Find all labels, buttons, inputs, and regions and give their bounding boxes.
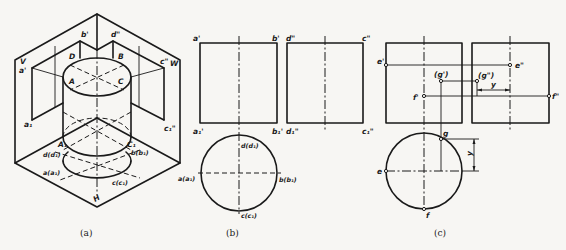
h-diagonal — [60, 150, 140, 180]
label-a-a1: a(a₁) — [43, 169, 60, 176]
label-plane-w: W — [170, 59, 179, 68]
point-f-double-prime — [547, 94, 550, 97]
label-y-top: y — [465, 150, 474, 156]
v-box-bottom — [32, 103, 63, 120]
label-A: A — [68, 77, 75, 86]
label-c1-double-prime: c₁" — [164, 124, 176, 133]
point-g-prime — [439, 79, 442, 82]
label-C1: C₁ — [127, 140, 136, 149]
label-e: e — [377, 167, 382, 176]
label-g: g — [443, 129, 449, 138]
arrowhead — [477, 89, 482, 92]
label-d1-double-prime: d₁" — [286, 127, 299, 136]
label-a-prime: a' — [193, 34, 200, 43]
arrowhead — [505, 89, 510, 92]
point-e-double-prime — [508, 63, 511, 66]
panel-c-point-location: e' e" (g') (g") f' f" y g e f y (c) — [377, 36, 559, 238]
label-a1-prime: a₁' — [193, 127, 204, 136]
point-e-prime — [384, 63, 387, 66]
point-e — [384, 169, 387, 172]
label-a-a1: a(a₁) — [178, 175, 195, 182]
projector-line — [131, 68, 164, 77]
label-c-double-prime: c" — [160, 57, 168, 66]
label-D: D — [69, 52, 75, 61]
arrowhead — [473, 139, 476, 144]
label-c-c1: c(c₁) — [112, 179, 128, 186]
caption-c: (c) — [434, 228, 446, 238]
w-box-bottom — [131, 103, 164, 120]
label-c1-double-prime: c₁" — [362, 127, 374, 136]
figure-canvas: V a' b' d" c" W D B A C a₁ c₁" A₁ C₁ d(d… — [0, 0, 566, 250]
label-f-prime: f' — [413, 93, 419, 102]
label-g-prime: (g') — [434, 70, 449, 79]
label-f-double-prime: f" — [552, 92, 559, 101]
caption-b: (b) — [226, 228, 239, 238]
label-e-prime: e' — [377, 57, 384, 66]
arrowhead — [473, 166, 476, 171]
label-A1: A₁ — [57, 140, 67, 149]
label-c-c1: c(c₁) — [241, 212, 257, 219]
label-b-prime: b' — [272, 34, 280, 43]
label-b-b1: b(b₁) — [131, 149, 149, 156]
label-e-double-prime: e" — [515, 61, 524, 70]
label-B: B — [118, 52, 124, 61]
panel-a-isometric: V a' b' d" c" W D B A C a₁ c₁" A₁ C₁ d(d… — [15, 14, 180, 238]
label-plane-h: H — [91, 193, 102, 204]
caption-a: (a) — [80, 228, 92, 238]
label-d-d1: d(d₁) — [43, 151, 61, 158]
point-f-prime — [422, 94, 425, 97]
label-a-prime: a' — [19, 66, 26, 75]
label-C: C — [118, 77, 124, 86]
label-y-side: y — [491, 80, 497, 89]
label-g-double-prime: (g") — [478, 71, 494, 80]
label-b-b1: b(b₁) — [279, 176, 297, 183]
label-d-double-prime: d" — [111, 30, 120, 39]
label-d-d1: d(d₁) — [241, 142, 259, 149]
label-plane-v: V — [20, 57, 27, 66]
label-c-double-prime: c" — [362, 34, 370, 43]
label-b-prime: b' — [81, 30, 89, 39]
technical-drawing: V a' b' d" c" W D B A C a₁ c₁" A₁ C₁ d(d… — [0, 0, 566, 250]
label-b1-prime: b₁' — [272, 127, 283, 136]
projector-line — [32, 68, 63, 77]
label-d-double-prime: d" — [286, 34, 295, 43]
panel-b-orthographic: a' b' d" c" a₁' b₁' d₁" c₁" d(d₁) a(a₁) … — [178, 34, 374, 238]
label-f: f — [426, 211, 431, 220]
label-a1: a₁ — [24, 120, 32, 129]
